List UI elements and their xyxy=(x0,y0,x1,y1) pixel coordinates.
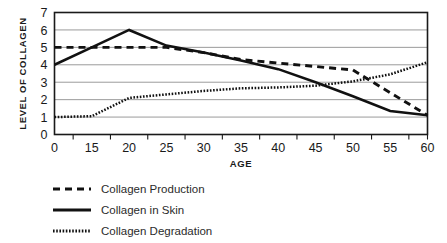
legend-label-collagen-degradation: Collagen Degradation xyxy=(101,225,212,237)
ytick-label-4: 4 xyxy=(41,58,48,72)
xtick-label-0: 0 xyxy=(51,141,58,155)
xtick-label-45: 45 xyxy=(309,141,323,155)
xtick-label-50: 50 xyxy=(346,141,360,155)
legend-label-collagen-production: Collagen Production xyxy=(101,183,205,195)
xtick-label-35: 35 xyxy=(234,141,248,155)
xtick-label-55: 55 xyxy=(383,141,397,155)
xtick-label-15: 15 xyxy=(85,141,99,155)
series-line-collagen-production xyxy=(55,47,428,115)
ytick-label-0: 0 xyxy=(41,128,48,142)
series-line-collagen-degradation xyxy=(55,62,428,117)
xtick-label-40: 40 xyxy=(271,141,285,155)
xtick-label-60: 60 xyxy=(421,141,435,155)
xtick-label-30: 30 xyxy=(197,141,211,155)
ytick-label-5: 5 xyxy=(41,41,48,55)
legend-item-collagen-in-skin[interactable]: Collagen in Skin xyxy=(52,199,352,220)
ytick-label-6: 6 xyxy=(41,24,48,38)
xtick-label-25: 25 xyxy=(159,141,173,155)
ytick-label-1: 1 xyxy=(41,111,48,125)
ytick-label-2: 2 xyxy=(41,93,48,107)
xtick-label-20: 20 xyxy=(122,141,136,155)
ytick-label-3: 3 xyxy=(41,76,48,90)
legend-label-collagen-in-skin: Collagen in Skin xyxy=(101,204,184,216)
dashed-line-icon xyxy=(52,183,92,195)
chart-legend: Collagen Production Collagen in Skin Col… xyxy=(52,178,352,241)
ytick-label-7: 7 xyxy=(41,6,48,20)
dotted-line-icon xyxy=(52,225,92,237)
series-line-collagen-in-skin xyxy=(55,30,428,115)
x-axis-title: AGE xyxy=(230,158,252,169)
solid-line-icon xyxy=(52,204,92,216)
collagen-level-line-chart: 01234567015202530354045505560AGELEVEL OF… xyxy=(0,0,447,243)
y-axis-title: LEVEL OF COLLAGEN xyxy=(17,17,28,129)
legend-item-collagen-production[interactable]: Collagen Production xyxy=(52,178,352,199)
plot-frame xyxy=(55,13,428,135)
legend-item-collagen-degradation[interactable]: Collagen Degradation xyxy=(52,220,352,241)
